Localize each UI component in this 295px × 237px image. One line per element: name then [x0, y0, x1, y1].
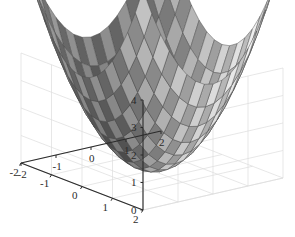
z-tick-label-0: 4 — [131, 95, 137, 106]
surface-mesh — [21, 0, 283, 172]
x-tick-label-3: 1 — [124, 145, 130, 156]
x-tick-label-0: -2 — [18, 169, 27, 180]
x-tick-label-1: -1 — [53, 161, 62, 172]
x-tick-label-4: 2 — [159, 137, 165, 148]
y-tick-label-2: 0 — [72, 190, 78, 201]
x-tick-label-2: 0 — [89, 153, 95, 164]
y-tick-label-3: -1 — [40, 178, 49, 189]
surface-plot-figure: 43210210-1-2-2-1012 — [0, 0, 295, 237]
z-tick-label-3: 1 — [131, 177, 137, 188]
z-tick-label-2: 2 — [131, 150, 137, 161]
y-tick-label-0: 2 — [133, 214, 139, 225]
z-tick-label-1: 3 — [131, 122, 137, 133]
y-tick-label-1: 1 — [103, 202, 109, 213]
surface-plot-canvas — [0, 0, 295, 237]
